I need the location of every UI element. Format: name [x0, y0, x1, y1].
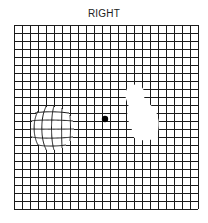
amsler-grid [0, 0, 208, 223]
distortion-region [30, 106, 74, 150]
fixation-dot [102, 116, 108, 122]
scotoma-blob [125, 85, 158, 141]
